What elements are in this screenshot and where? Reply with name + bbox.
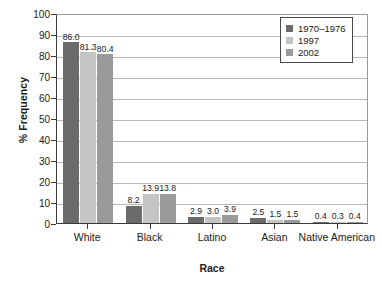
x-axis-tick-mark <box>337 224 338 229</box>
bar <box>284 220 300 223</box>
bar <box>126 206 142 223</box>
bar-column: 80.4 <box>97 15 113 223</box>
bar-column: 13.8 <box>160 15 176 223</box>
bar-value-label: 3.9 <box>224 205 236 214</box>
y-axis-tick-label: 50 <box>14 114 50 125</box>
y-axis-tick-label: 100 <box>14 9 50 20</box>
bar-value-label: 8.2 <box>128 196 140 205</box>
bar <box>330 222 346 224</box>
bar-value-label: 3.0 <box>207 207 219 216</box>
bar-value-label: 80.4 <box>97 45 114 54</box>
bar-value-label: 1.5 <box>269 210 281 219</box>
bar-column: 86.0 <box>63 15 79 223</box>
legend-item: 1970–1976 <box>286 22 346 34</box>
legend-swatch-icon <box>286 49 293 56</box>
bar-value-label: 13.8 <box>159 184 176 193</box>
bar-column: 2.9 <box>188 15 204 223</box>
bar-column: 13.9 <box>143 15 159 223</box>
x-axis-tick-mark <box>150 224 151 229</box>
bar <box>267 220 283 223</box>
y-axis-tick-label: 0 <box>14 219 50 230</box>
bar-column: 3.9 <box>222 15 238 223</box>
bar-chart: % Frequency 0102030405060708090100 86.08… <box>0 0 382 283</box>
bar-column: 2.5 <box>250 15 266 223</box>
bar-value-label: 13.9 <box>142 184 159 193</box>
bar <box>205 217 221 223</box>
legend-label: 1970–1976 <box>298 23 346 34</box>
y-axis-tick-label: 20 <box>14 177 50 188</box>
y-axis-tick-mark <box>51 224 56 225</box>
x-axis-tick-mark <box>87 224 88 229</box>
bar <box>250 218 266 223</box>
bar-group: 86.081.380.4 <box>57 15 119 223</box>
y-axis-tick-label: 80 <box>14 51 50 62</box>
bar <box>143 194 159 223</box>
bar-group: 8.213.913.8 <box>119 15 181 223</box>
bar <box>222 215 238 223</box>
x-axis-tick-mark <box>212 224 213 229</box>
bar-value-label: 1.5 <box>286 210 298 219</box>
y-axis-tick-label: 60 <box>14 93 50 104</box>
y-axis-tick-label: 10 <box>14 198 50 209</box>
x-axis-category-label: Native American <box>297 231 377 244</box>
legend: 1970–197619972002 <box>280 17 353 63</box>
bar-value-label: 86.0 <box>63 33 80 42</box>
bar <box>188 217 204 223</box>
y-axis-tick-label: 70 <box>14 72 50 83</box>
bar <box>160 194 176 223</box>
y-axis-tick-label: 30 <box>14 156 50 167</box>
bar-column: 3.0 <box>205 15 221 223</box>
bar-value-label: 0.4 <box>315 212 327 221</box>
bar-value-label: 2.5 <box>252 208 264 217</box>
bar-value-label: 0.4 <box>349 212 361 221</box>
legend-swatch-icon <box>286 25 293 32</box>
x-axis-tick-mark <box>274 224 275 229</box>
bar-value-label: 0.3 <box>332 212 344 221</box>
bar-column: 81.3 <box>80 15 96 223</box>
legend-label: 2002 <box>298 47 319 58</box>
bar-group: 2.93.03.9 <box>182 15 244 223</box>
bar-value-label: 2.9 <box>190 207 202 216</box>
legend-item: 1997 <box>286 34 346 46</box>
bar <box>80 52 96 223</box>
bar-column: 8.2 <box>126 15 142 223</box>
legend-label: 1997 <box>298 35 319 46</box>
bar <box>97 54 113 223</box>
bar <box>313 222 329 224</box>
y-axis-tick-label: 90 <box>14 30 50 41</box>
bar <box>63 42 79 223</box>
legend-swatch-icon <box>286 37 293 44</box>
y-axis-tick-label: 40 <box>14 135 50 146</box>
bar-value-label: 81.3 <box>80 43 97 52</box>
x-axis-title: Race <box>56 262 368 274</box>
legend-item: 2002 <box>286 46 346 58</box>
bar <box>347 222 363 224</box>
